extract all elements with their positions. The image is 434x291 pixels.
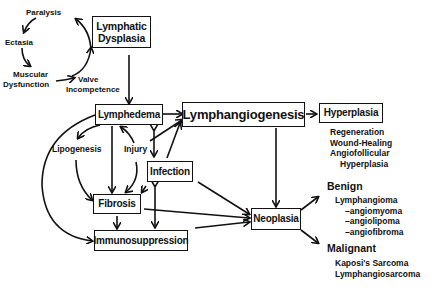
lymphedema-box: Lymphedema xyxy=(95,104,163,125)
malignant-heading: Malignant xyxy=(327,242,376,254)
immunosuppression-box: Immunosuppression xyxy=(94,230,188,251)
malignant-item: Kaposi's Sarcoma xyxy=(335,258,420,269)
paralysis-label: Paralysis xyxy=(26,8,61,18)
benign-list: Lymphangioma –angiomyoma –angiolipoma –a… xyxy=(335,195,404,237)
injury-label: Injury xyxy=(124,144,147,154)
hyperplasia-box: Hyperplasia xyxy=(319,103,383,123)
hyperplasia-type: Regeneration xyxy=(330,127,392,138)
hyperplasia-type: Hyperplasia xyxy=(330,159,392,170)
benign-item: –angiolipoma xyxy=(335,216,404,227)
neoplasia-box: Neoplasia xyxy=(251,208,301,230)
hyperplasia-types-list: Regeneration Wound-Healing Angiofollicul… xyxy=(330,127,392,169)
infection-box: Infection xyxy=(147,161,193,182)
benign-item: Lymphangioma xyxy=(335,195,404,206)
lymphatic-dysplasia-box: Lymphatic Dysplasia xyxy=(92,16,151,48)
muscular-text: Muscular xyxy=(3,70,49,80)
muscular-dysfunction-label: Muscular Dysfunction xyxy=(3,70,49,90)
malignant-list: Kaposi's Sarcoma Lymphangiosarcoma xyxy=(335,258,420,279)
fibrosis-box: Fibrosis xyxy=(93,194,141,214)
lipogenesis-label: Lipogenesis xyxy=(52,144,102,154)
benign-item: –angiomyoma xyxy=(335,206,404,217)
hyperplasia-type: Wound-Healing xyxy=(330,138,392,149)
hyperplasia-type: Angiofollicular xyxy=(330,148,392,159)
malignant-item: Lymphangiosarcoma xyxy=(335,269,420,280)
valve-text: Valve xyxy=(66,75,120,85)
dysfunction-text: Dysfunction xyxy=(3,80,49,90)
incompetence-text: Incompetence xyxy=(66,85,120,95)
benign-heading: Benign xyxy=(327,180,363,192)
dysplasia-text: Dysplasia xyxy=(98,32,145,44)
valve-incompetence-label: Valve Incompetence xyxy=(66,75,120,95)
ectasia-label: Ectasia xyxy=(5,38,33,48)
lymphatic-text: Lymphatic xyxy=(96,20,146,32)
benign-item: –angiofibroma xyxy=(335,227,404,238)
lymphangiogenesis-box: Lymphangiogenesis xyxy=(182,102,305,127)
